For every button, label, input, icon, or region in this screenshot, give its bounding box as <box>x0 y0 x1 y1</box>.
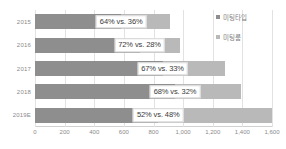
legend-swatch-icon <box>216 15 220 19</box>
bar-data-label: 52% vs. 48% <box>133 109 184 123</box>
x-tick-label: 1,400 <box>235 129 250 135</box>
x-tick-label: 1,000 <box>176 129 191 135</box>
bar-chart: 20152016201720182019E 미팅타입미팅룸 0200400600… <box>0 0 286 149</box>
x-tick-label: 600 <box>119 129 129 135</box>
x-tick-label: 1,200 <box>205 129 220 135</box>
x-tick-label: 800 <box>148 129 158 135</box>
category-label: 2018 <box>17 89 31 95</box>
category-axis: 20152016201720182019E <box>0 10 31 127</box>
x-tick-label: 200 <box>60 129 70 135</box>
category-label: 2019E <box>13 112 31 118</box>
bar-data-label: 72% vs. 28% <box>114 38 165 52</box>
category-label: 2016 <box>17 42 31 48</box>
x-tick-label: 0 <box>33 129 36 135</box>
x-tick-label: 1,600 <box>264 129 279 135</box>
category-label: 2015 <box>17 19 31 25</box>
bar-row <box>35 61 225 76</box>
bar-data-label: 64% vs. 36% <box>96 15 147 29</box>
gridline <box>272 10 273 127</box>
legend-item[interactable]: 미팅타입 <box>216 12 247 22</box>
category-label: 2017 <box>17 66 31 72</box>
legend-label: 미팅타입 <box>223 12 247 22</box>
bar-data-label: 68% vs. 32% <box>150 85 201 99</box>
legend-label: 미팅룸 <box>223 32 241 42</box>
bar-data-label: 67% vs. 33% <box>137 62 188 76</box>
legend: 미팅타입미팅룸 <box>216 12 247 42</box>
x-tick-label: 400 <box>89 129 99 135</box>
legend-item[interactable]: 미팅룸 <box>216 32 247 42</box>
legend-swatch-icon <box>216 35 220 39</box>
bar-row <box>35 84 241 99</box>
